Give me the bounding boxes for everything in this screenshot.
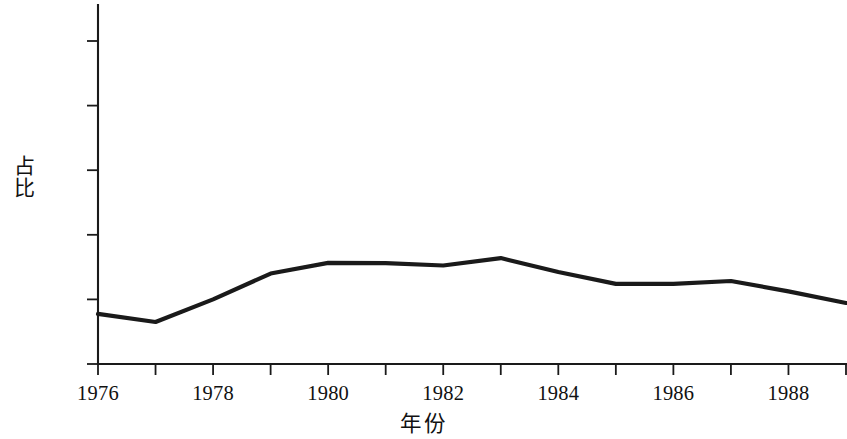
x-axis-tick-labels: 1976197819801982198419861988	[0, 0, 847, 439]
x-axis-title: 年份	[0, 406, 847, 437]
line-chart: 020%40%60%80%100% 1976197819801982198419…	[0, 0, 847, 439]
x-axis-tick-label: 1982	[422, 383, 464, 404]
x-axis-tick-label: 1988	[768, 383, 810, 404]
x-axis-tick-label: 1984	[537, 383, 579, 404]
x-axis-tick-label: 1980	[307, 383, 349, 404]
x-axis-tick-label: 1976	[77, 383, 119, 404]
x-axis-tick-label: 1986	[652, 383, 694, 404]
x-axis-tick-label: 1978	[192, 383, 234, 404]
y-axis-title: 占比	[6, 155, 34, 199]
